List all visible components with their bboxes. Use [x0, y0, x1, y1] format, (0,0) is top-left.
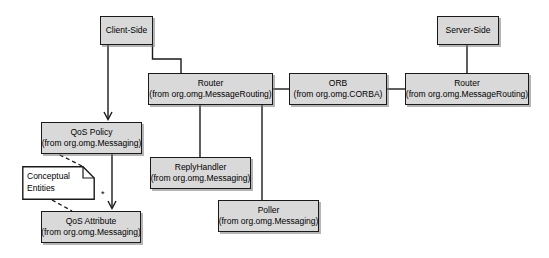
- node-reply-handler-label: ReplyHandler: [175, 162, 227, 173]
- note-conceptual-entities[interactable]: Conceptual Entities: [22, 166, 95, 200]
- multiplicity-label-qos-attribute: *: [101, 190, 105, 199]
- node-poller-package: (from org.omg.Messaging): [219, 216, 319, 227]
- node-qos-attribute-package: (from org.omg.Messaging): [41, 227, 141, 238]
- node-qos-policy[interactable]: QoS Policy (from org.omg.Messaging): [41, 122, 142, 154]
- node-router-server-package: (from org.omg.MessageRouting): [406, 89, 528, 100]
- edge-note-to-qos-policy: [58, 154, 82, 166]
- node-router-server-label: Router: [454, 78, 480, 89]
- node-orb[interactable]: ORB (from org.omg.CORBA): [289, 73, 387, 105]
- node-client-side[interactable]: Client-Side: [100, 16, 153, 45]
- node-poller-label: Poller: [258, 205, 280, 216]
- edge-note-to-qos-attribute: [52, 200, 72, 211]
- note-line-2: Entities: [22, 183, 95, 195]
- edge-client-side-to-router-client: [153, 45, 182, 73]
- node-router-client-label: Router: [198, 78, 224, 89]
- node-router-client[interactable]: Router (from org.omg.MessageRouting): [148, 73, 273, 105]
- node-reply-handler[interactable]: ReplyHandler (from org.omg.Messaging): [150, 157, 251, 189]
- node-qos-attribute-label: QoS Attribute: [66, 216, 117, 227]
- node-server-side-label: Server-Side: [446, 25, 491, 36]
- node-qos-policy-package: (from org.omg.Messaging): [42, 138, 142, 149]
- note-line-1: Conceptual: [22, 166, 95, 183]
- node-poller[interactable]: Poller (from org.omg.Messaging): [218, 200, 319, 232]
- node-qos-policy-label: QoS Policy: [70, 127, 112, 138]
- node-qos-attribute[interactable]: QoS Attribute (from org.omg.Messaging): [41, 211, 141, 243]
- node-orb-label: ORB: [329, 78, 347, 89]
- node-reply-handler-package: (from org.omg.Messaging): [151, 173, 251, 184]
- node-router-server[interactable]: Router (from org.omg.MessageRouting): [405, 73, 529, 105]
- node-client-side-label: Client-Side: [106, 25, 148, 36]
- node-router-client-package: (from org.omg.MessageRouting): [149, 89, 271, 100]
- node-server-side[interactable]: Server-Side: [437, 16, 499, 45]
- node-orb-package: (from org.omg.CORBA): [294, 89, 383, 100]
- uml-diagram-canvas: Client-Side Server-Side Router (from org…: [0, 0, 549, 258]
